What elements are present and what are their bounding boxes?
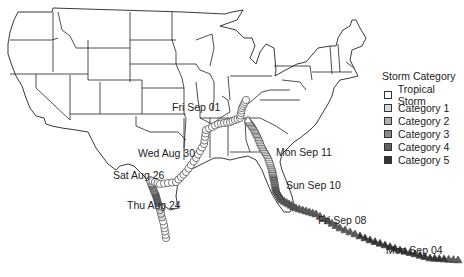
label-wed-aug-30: Wed Aug 30	[138, 147, 195, 159]
label-sat-aug-26: Sat Aug 26	[113, 169, 165, 181]
label-sun-sep-10: Sun Sep 10	[286, 179, 341, 191]
harvey-track-point	[242, 96, 249, 103]
legend-label: Category 3	[398, 128, 449, 140]
legend-item-category-3: Category 3	[384, 127, 464, 140]
legend: Storm Category Tropical Storm Category 1…	[382, 70, 464, 166]
label-thu-aug-24: Thu Aug 24	[127, 199, 181, 211]
legend-label: Category 4	[398, 141, 449, 153]
legend-label: Category 2	[398, 115, 449, 127]
legend-label: Category 1	[398, 102, 449, 114]
label-fri-sep-01: Fri Sep 01	[172, 101, 221, 113]
legend-item-category-4: Category 4	[384, 140, 464, 153]
legend-label: Category 5	[398, 154, 449, 166]
legend-item-category-2: Category 2	[384, 114, 464, 127]
label-fri-sep-08: Fri Sep 08	[318, 214, 367, 226]
legend-item-category-5: Category 5	[384, 153, 464, 166]
legend-title: Storm Category	[382, 70, 464, 82]
label-mon-sep-04: Mon Sep 04	[386, 244, 443, 256]
legend-swatch	[384, 156, 392, 164]
legend-item-tropical-storm: Tropical Storm	[384, 88, 464, 101]
label-mon-sep-11: Mon Sep 11	[276, 146, 332, 158]
legend-swatch	[384, 130, 392, 138]
legend-swatch	[384, 143, 392, 151]
legend-swatch	[384, 104, 392, 112]
legend-swatch	[384, 117, 392, 125]
legend-swatch	[384, 91, 392, 99]
